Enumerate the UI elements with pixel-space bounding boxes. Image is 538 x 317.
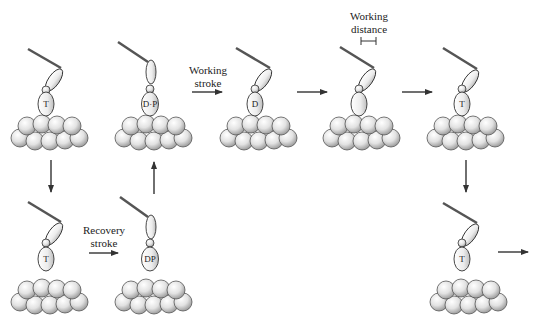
recovery-stroke-line2: stroke bbox=[78, 237, 130, 250]
nucleotide-label-s2: D·P bbox=[143, 99, 158, 109]
state-4-myosin bbox=[323, 47, 400, 150]
working-distance-label: Working distance bbox=[343, 10, 395, 36]
working-stroke-line1: Working bbox=[183, 64, 233, 77]
working-stroke-label: Working stroke bbox=[183, 64, 233, 90]
nucleotide-label-s1: T bbox=[43, 99, 49, 109]
state-2-myosin: D·P bbox=[115, 42, 192, 150]
working-stroke-line2: stroke bbox=[183, 77, 233, 90]
nucleotide-label-s3: D bbox=[252, 99, 259, 109]
state-1-myosin: T bbox=[11, 49, 88, 150]
recovery-stroke-label: Recovery stroke bbox=[78, 224, 130, 250]
recovery-stroke-line1: Recovery bbox=[78, 224, 130, 237]
state-5-myosin: T bbox=[427, 48, 504, 150]
nucleotide-label-s6: T bbox=[43, 254, 49, 264]
state-7-myosin: DP bbox=[115, 197, 192, 314]
nucleotide-label-s5: T bbox=[459, 99, 465, 109]
nucleotide-label-s7: DP bbox=[144, 254, 156, 264]
working-distance-line1: Working bbox=[343, 10, 395, 23]
state-6-myosin: T bbox=[11, 202, 88, 314]
working-distance-bracket bbox=[361, 37, 376, 45]
nucleotide-label-s8: T bbox=[459, 254, 465, 264]
working-distance-line2: distance bbox=[343, 23, 395, 36]
state-8-myosin: T bbox=[430, 203, 507, 314]
cross-bridge-cycle-diagram: T D·P D T bbox=[0, 0, 538, 317]
